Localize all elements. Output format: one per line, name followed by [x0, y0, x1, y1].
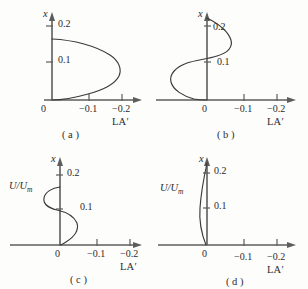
origin-label-a: 0: [41, 104, 46, 114]
y-axis-label-b: x: [198, 9, 203, 20]
subplot-c: x 0.2 0.1 U/Um 0 −0.1 −0.2 LA′ ( c ): [0, 145, 154, 289]
x-axis-label-a: LA′: [112, 117, 129, 128]
y-tick-label-lower-b: 0.1: [217, 57, 230, 67]
subplot-a-canvas: [0, 0, 154, 144]
origin-label-b: 0: [202, 104, 207, 114]
y-tick-label-upper-a: 0.2: [58, 19, 71, 29]
subplot-a: x 0.2 0.1 0 −0.1 −0.2 LA′ ( a ): [0, 0, 154, 144]
curve-a: [52, 39, 120, 100]
x-axis-label-c: LA′: [120, 262, 137, 273]
velocity-ratio-label-c: U/Um: [9, 181, 33, 194]
x-tick-label-far-a: −0.2: [112, 104, 130, 114]
subplot-d-canvas: [154, 145, 308, 289]
x-axis-label-d: LA′: [267, 265, 284, 276]
velocity-ratio-text-c: U/U: [9, 180, 27, 191]
x-axis-arrowhead-a: [133, 97, 142, 103]
y-axis-label-c: x: [51, 154, 56, 165]
x-tick-label-far-d: −0.2: [267, 252, 285, 262]
x-tick-label-mid-c: −0.1: [87, 249, 105, 259]
y-axis-arrowhead-a: [49, 12, 55, 21]
caption-b: ( b ): [217, 130, 235, 141]
y-axis-label-a: x: [43, 9, 48, 20]
curve-d: [200, 163, 207, 245]
figure-container: x 0.2 0.1 0 −0.1 −0.2 LA′ ( a ) x 0.2 0.…: [0, 0, 308, 289]
caption-c: ( c ): [70, 275, 87, 286]
y-axis-arrowhead-c: [57, 157, 63, 166]
y-tick-label-lower-c: 0.1: [80, 202, 93, 212]
origin-label-c: 0: [55, 249, 60, 259]
x-tick-label-mid-a: −0.1: [79, 104, 97, 114]
caption-a: ( a ): [62, 130, 79, 141]
subplot-d: x 0.2 0.1 U/Um 0 −0.1 −0.2 LA′ ( d ): [154, 145, 308, 289]
x-tick-label-mid-b: −0.1: [234, 104, 252, 114]
velocity-ratio-subscript-c: m: [27, 185, 32, 194]
subplot-b-canvas: [154, 0, 308, 144]
y-axis-label-d: x: [199, 154, 204, 165]
caption-d: ( d ): [226, 277, 244, 288]
y-tick-label-lower-d: 0.1: [214, 201, 227, 211]
subplot-b: x 0.2 0.1 0 −0.1 −0.2 LA′ ( b ): [154, 0, 308, 144]
x-axis-label-b: LA′: [267, 117, 284, 128]
y-tick-label-upper-d: 0.2: [214, 166, 227, 176]
velocity-ratio-label-d: U/Um: [160, 183, 184, 196]
velocity-ratio-text-d: U/U: [160, 182, 178, 193]
velocity-ratio-subscript-d: m: [178, 187, 183, 196]
x-axis-arrowhead-d: [287, 242, 296, 248]
x-tick-label-mid-d: −0.1: [234, 252, 252, 262]
x-tick-label-far-b: −0.2: [267, 104, 285, 114]
origin-label-d: 0: [202, 249, 207, 259]
y-tick-label-upper-c: 0.2: [67, 168, 80, 178]
x-axis-arrowhead-b: [287, 97, 296, 103]
y-tick-label-upper-b: 0.2: [213, 22, 226, 32]
x-tick-label-far-c: −0.2: [120, 249, 138, 259]
y-tick-label-lower-a: 0.1: [58, 55, 71, 65]
